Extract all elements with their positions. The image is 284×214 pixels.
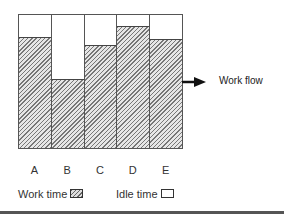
bar-label: A — [24, 164, 44, 176]
work-swatch — [70, 189, 83, 198]
work-time-segment — [52, 79, 84, 148]
arrow-right-icon — [182, 77, 206, 87]
bar-a — [18, 14, 52, 149]
work-time-segment — [150, 39, 182, 148]
legend-idle-label: Idle time — [116, 188, 158, 200]
bar-e — [149, 14, 183, 149]
bar-label: E — [156, 164, 176, 176]
bar-label: C — [90, 164, 110, 176]
bottom-rule — [0, 211, 284, 214]
bar-label: B — [57, 164, 77, 176]
bar-chart-frame — [18, 14, 182, 149]
bar-c — [84, 14, 118, 149]
work-time-segment — [19, 37, 51, 148]
legend-work-label: Work time — [18, 188, 67, 200]
work-time-segment — [117, 26, 149, 148]
bar-b — [51, 14, 85, 149]
bar-d — [116, 14, 150, 149]
work-flow-label: Work flow — [219, 75, 263, 86]
bar-label: D — [123, 164, 143, 176]
work-time-segment — [85, 45, 117, 148]
idle-swatch — [161, 189, 174, 198]
